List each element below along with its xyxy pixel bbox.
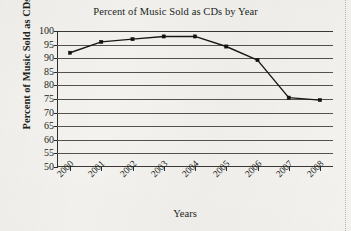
data-point-marker [318, 98, 321, 101]
series-line [70, 36, 320, 100]
data-series-cd-percent [57, 31, 333, 167]
y-axis-tick-label: 70 [30, 108, 54, 118]
data-point-marker [287, 96, 290, 99]
y-axis-tick-label: 50 [30, 162, 54, 172]
y-axis-tick-label: 55 [30, 148, 54, 158]
x-axis-title: Years [40, 208, 330, 219]
plot-area [57, 31, 333, 167]
data-point-marker [225, 45, 228, 48]
y-axis-tick-label: 90 [30, 53, 54, 63]
y-axis-tick-label: 65 [30, 121, 54, 131]
y-axis-tick-label: 100 [30, 26, 54, 36]
data-point-marker [68, 51, 71, 54]
y-axis-tick-label: 95 [30, 40, 54, 50]
data-point-marker [131, 38, 134, 41]
data-point-marker [193, 35, 196, 38]
y-axis-tick-labels: 10095908580757065605550 [28, 31, 54, 167]
y-axis-tick-label: 60 [30, 135, 54, 145]
y-axis-tick-label: 85 [30, 67, 54, 77]
line-chart-figure: Percent of Music Sold as CDs by Year Per… [0, 0, 351, 231]
page-edge-rule [345, 0, 346, 231]
y-axis-tick-label: 80 [30, 80, 54, 90]
data-point-marker [100, 40, 103, 43]
data-point-marker [256, 59, 259, 62]
chart-title: Percent of Music Sold as CDs by Year [0, 6, 351, 17]
y-axis-tick-label: 75 [30, 94, 54, 104]
data-point-marker [162, 35, 165, 38]
